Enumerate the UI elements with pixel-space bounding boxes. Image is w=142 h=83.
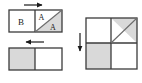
label-A-upper: A bbox=[39, 13, 45, 22]
quadrant-bottom-right bbox=[111, 43, 137, 69]
panel-right-square bbox=[80, 18, 137, 69]
label-A-lower: A bbox=[50, 23, 56, 32]
panel-top-left-rectangle: B A A bbox=[9, 5, 62, 32]
quadrant-bottom-left bbox=[86, 43, 111, 69]
half-white-right bbox=[35, 48, 62, 70]
label-B: B bbox=[18, 17, 24, 27]
diagram-svg: B A A bbox=[0, 0, 142, 83]
diagram-canvas: B A A bbox=[0, 0, 142, 83]
quadrant-top-left bbox=[86, 18, 111, 43]
panel-bottom-left-rectangle bbox=[9, 42, 62, 70]
half-shaded-left bbox=[9, 48, 35, 70]
